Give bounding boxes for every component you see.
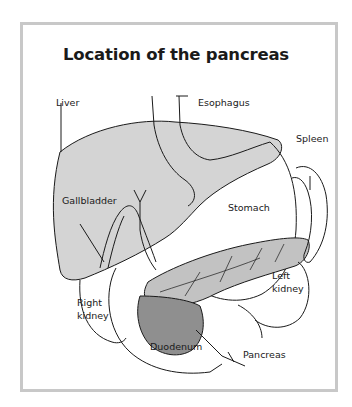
label-right-kidney-line1: Right	[77, 297, 102, 309]
label-spleen: Spleen	[296, 133, 328, 145]
label-stomach: Stomach	[228, 202, 270, 214]
label-gallbladder: Gallbladder	[62, 195, 117, 207]
label-left-kidney-line1: Left	[272, 270, 290, 282]
label-liver: Liver	[56, 97, 79, 109]
label-right-kidney-line2: kidney	[77, 310, 109, 322]
diagram-title: Location of the pancreas	[0, 45, 352, 64]
label-left-kidney-line2: kidney	[272, 283, 304, 295]
label-pancreas: Pancreas	[243, 349, 286, 361]
label-esophagus: Esophagus	[198, 97, 250, 109]
label-duodenum: Duodenum	[150, 341, 202, 353]
